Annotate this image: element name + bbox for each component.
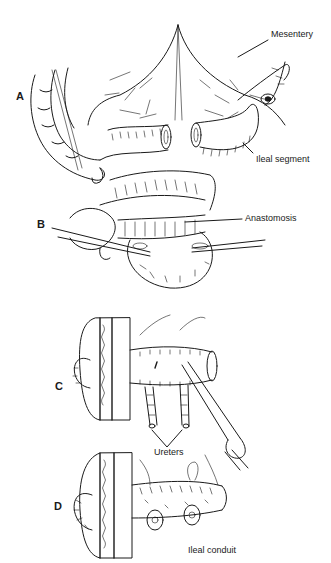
- panel-b-drawing: [52, 171, 265, 288]
- panel-label-c: C: [55, 380, 63, 392]
- label-ileal-segment: Ileal segment: [256, 154, 310, 164]
- panel-label-a: A: [16, 90, 24, 102]
- panel-d-drawing: [74, 453, 227, 558]
- panel-label-d: D: [54, 500, 62, 512]
- panel-label-b: B: [37, 218, 45, 230]
- label-anastomosis: Anastomosis: [245, 213, 297, 223]
- line-art-illustration: [0, 0, 331, 563]
- label-ureters: Ureters: [154, 447, 184, 457]
- ileal-conduit-surgical-diagram: A B C D Mesentery Ileal segment Anastomo…: [0, 0, 331, 563]
- label-ileal-conduit: Ileal conduit: [188, 545, 236, 555]
- panel-a-drawing: [31, 25, 290, 183]
- label-mesentery: Mesentery: [271, 29, 313, 39]
